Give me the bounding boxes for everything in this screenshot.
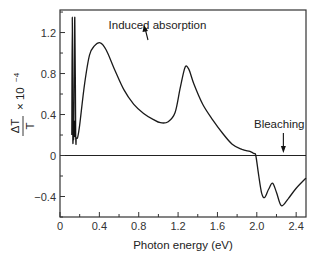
spectrum-curve bbox=[72, 17, 306, 206]
plot-frame bbox=[60, 10, 306, 217]
x-tick-label: 0.4 bbox=[92, 220, 107, 232]
annotation-induced-absorption: Induced absorption bbox=[109, 19, 207, 31]
x-tick-label: 0.8 bbox=[131, 220, 146, 232]
y-label-multiplier: × 10 bbox=[14, 87, 26, 110]
x-tick-label: 0 bbox=[57, 220, 63, 232]
annotations: Induced absorptionBleaching bbox=[109, 19, 305, 153]
x-axis-ticks: 00.40.81.21.62.02.4 bbox=[57, 212, 304, 232]
y-label-exponent: −4 bbox=[12, 72, 21, 82]
y-tick-label: 0.8 bbox=[41, 68, 56, 80]
arrow-down-icon bbox=[281, 146, 286, 153]
y-tick-label: 1.2 bbox=[41, 27, 56, 39]
x-tick-label: 2.0 bbox=[249, 220, 264, 232]
x-tick-label: 1.6 bbox=[210, 220, 225, 232]
x-tick-label: 2.4 bbox=[289, 220, 304, 232]
annotation-bleaching: Bleaching bbox=[254, 118, 305, 130]
y-tick-label: −0.4 bbox=[34, 191, 56, 203]
y-tick-label: 0 bbox=[50, 150, 56, 162]
y-axis-label: ΔT T × 10 −4 bbox=[9, 72, 36, 136]
y-label-denominator: T bbox=[24, 122, 36, 129]
y-tick-label: 0.4 bbox=[41, 109, 56, 121]
x-tick-label: 1.2 bbox=[170, 220, 185, 232]
x-axis-label: Photon energy (eV) bbox=[133, 239, 233, 251]
chart-canvas: 00.40.81.21.62.02.4 −0.400.40.81.2 Induc… bbox=[0, 0, 318, 260]
y-label-numerator: ΔT bbox=[9, 119, 21, 134]
